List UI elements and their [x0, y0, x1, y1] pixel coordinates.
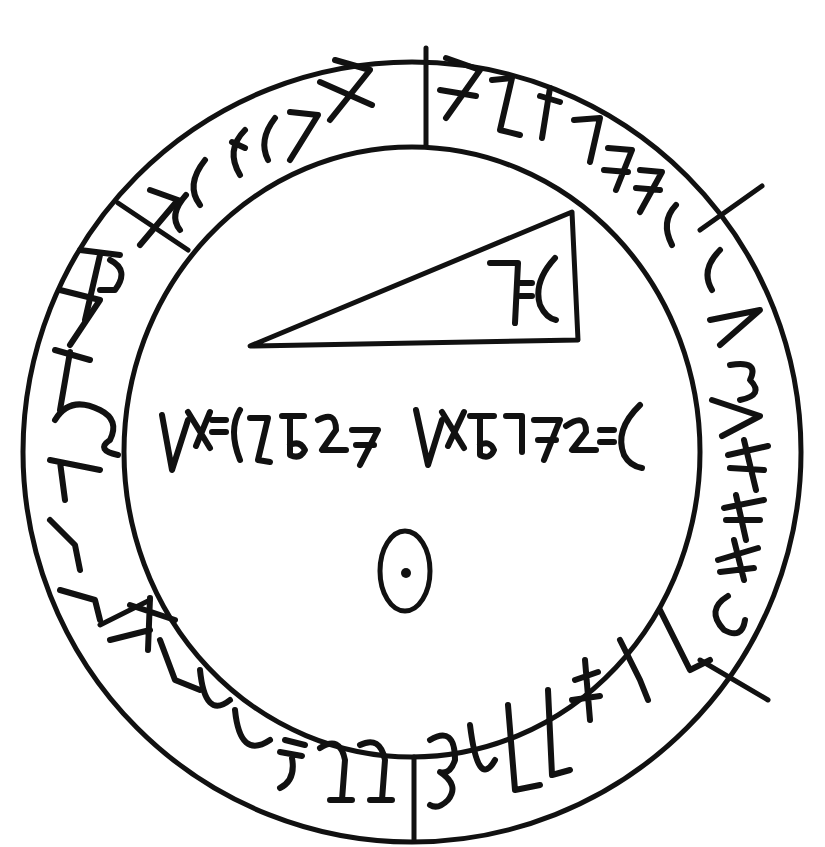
center-inscription-word2 — [416, 405, 642, 468]
inner-ring — [124, 147, 700, 757]
seal-drawing — [0, 0, 825, 847]
ring-glyphs-left — [50, 250, 121, 620]
triangle-label-glyphs — [490, 258, 556, 323]
ring-glyphs-right-lower — [715, 440, 768, 633]
seal-diagram — [0, 0, 825, 847]
ring-glyphs-bottom-left — [110, 598, 392, 800]
circumpunct-icon — [380, 531, 430, 611]
triangle — [250, 212, 578, 346]
outer-ring — [23, 62, 801, 842]
center-inscription-word1 — [162, 410, 378, 470]
ring-glyphs-top-left — [140, 60, 372, 245]
ring-glyphs-right-upper — [708, 250, 761, 436]
